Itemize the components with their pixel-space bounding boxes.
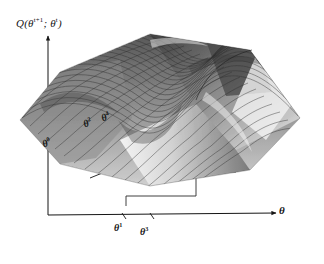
surface-mesh — [20, 24, 300, 188]
z-axis-label: Q(θt+1; θt) — [16, 18, 62, 29]
x-axis-label: θ — [279, 205, 285, 216]
iterate-sup: 3 — [145, 225, 148, 232]
z-axis-label-close: ) — [58, 17, 62, 29]
z-axis-label-open: Q( — [16, 17, 28, 29]
iterate-label-theta3: θ3 — [140, 227, 148, 237]
z-axis-label-sup1: t+1 — [34, 16, 44, 23]
x-axis-line — [48, 213, 276, 215]
x-axis-label-text: θ — [279, 204, 285, 216]
iterate-label-theta1: θ1 — [114, 223, 122, 233]
iterate-sup: 1 — [119, 221, 122, 228]
em-surface-figure — [0, 0, 324, 264]
